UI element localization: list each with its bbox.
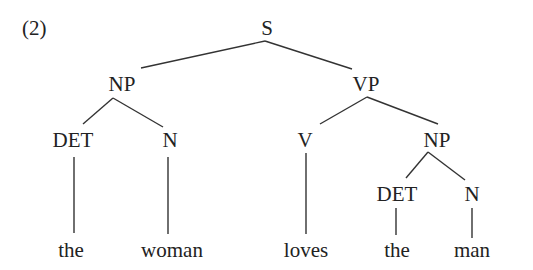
edge-np2-det [406, 152, 428, 178]
word-loves: loves [284, 238, 328, 262]
node-vp: VP [353, 72, 380, 96]
example-number: (2) [22, 16, 47, 40]
word-the-2: the [384, 238, 410, 262]
edge-np-det [83, 98, 113, 124]
edge-s-np [141, 41, 265, 68]
word-man: man [454, 238, 491, 262]
word-the-1: the [58, 238, 84, 262]
edge-np-n [113, 98, 163, 127]
tree-edges [74, 41, 472, 238]
node-n-object: N [464, 182, 479, 206]
edge-vp-np [367, 97, 438, 124]
node-s: S [261, 16, 273, 40]
edge-np2-n [428, 152, 465, 180]
word-woman: woman [141, 238, 203, 262]
node-np-object: NP [424, 128, 451, 152]
node-np-subject: NP [109, 72, 136, 96]
edge-vp-v [320, 97, 367, 124]
node-det-object: DET [377, 182, 418, 206]
syntax-tree-diagram: (2) S NP VP DET N V NP DET N the woman l… [0, 0, 533, 270]
edge-s-vp [265, 41, 352, 69]
node-det-subject: DET [53, 128, 94, 152]
node-v: V [297, 128, 312, 152]
node-n-subject: N [162, 128, 177, 152]
